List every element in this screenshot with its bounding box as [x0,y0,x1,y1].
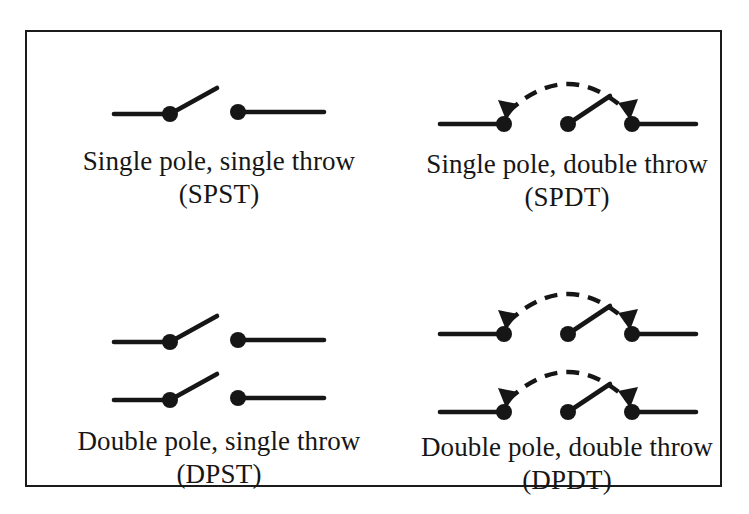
contact-dot-fixed [230,104,246,120]
scanned-page: Single pole, single throw (SPST) [0,0,749,514]
caption-abbr-text: (DPST) [54,459,384,491]
caption-abbr-text: (DPDT) [397,465,737,497]
dpdt-pole-2 [440,372,696,420]
caption-dpdt: Double pole, double throw (DPDT) [397,432,737,497]
panel-dpst: Double pole, single throw (DPST) [54,302,384,512]
dpst-symbol-icon [104,302,334,416]
spdt-symbol-icon [432,50,702,142]
caption-main-text: Double pole, single throw [54,426,384,458]
contact-dot-pivot [560,116,576,132]
spst-symbol-icon [104,64,334,136]
dpst-pole-1 [114,316,324,342]
contact-dot-pivot [560,404,576,420]
dpst-pole-2 [114,374,324,400]
contact-dot-right [624,404,640,420]
dpdt-symbol-icon [432,260,702,426]
transfer-arc-dashed [508,84,628,112]
transfer-arc-dashed [508,372,628,400]
caption-main-text: Single pole, double throw [397,149,737,181]
lever-arm [170,88,217,114]
panel-spst: Single pole, single throw (SPST) [54,64,384,254]
contact-dot-left [496,116,512,132]
caption-spdt: Single pole, double throw (SPDT) [397,149,737,214]
switch-symbol-spst [54,64,384,142]
transfer-arc-dashed [508,294,628,322]
contact-dot-fixed [230,332,246,348]
contact-dot-right [624,326,640,342]
lever-arm [170,316,217,342]
switch-symbol-spdt [397,50,737,145]
caption-abbr-text: (SPDT) [397,182,737,214]
dpdt-pole-1 [440,294,696,342]
caption-main-text: Single pole, single throw [54,146,384,178]
contact-dot-right [624,116,640,132]
caption-main-text: Double pole, double throw [397,432,737,464]
contact-dot-pivot [162,334,178,350]
contact-dot-left [496,326,512,342]
panel-dpdt: Double pole, double throw (DPDT) [397,260,737,512]
caption-spst: Single pole, single throw (SPST) [54,146,384,211]
contact-dot-fixed [230,390,246,406]
contact-dot-pivot [162,392,178,408]
figure-border: Single pole, single throw (SPST) [25,30,722,487]
caption-dpst: Double pole, single throw (DPST) [54,426,384,491]
caption-abbr-text: (SPST) [54,179,384,211]
switch-symbol-dpst [54,302,384,420]
switch-symbol-dpdt [397,260,737,428]
contact-dot-left [496,404,512,420]
panel-spdt: Single pole, double throw (SPDT) [397,50,737,255]
contact-dot-pivot [162,106,178,122]
lever-arm [170,374,217,400]
contact-dot-pivot [560,326,576,342]
